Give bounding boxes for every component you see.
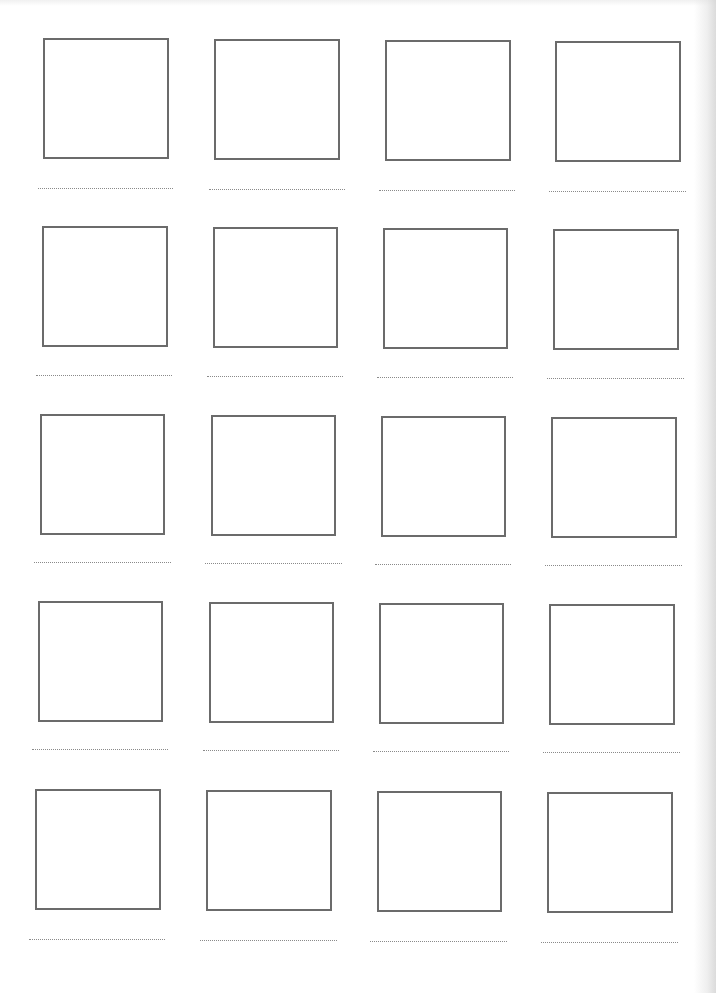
drawing-frame-r5-c4 (547, 792, 673, 913)
writing-line-r3-c4 (545, 565, 682, 566)
writing-line-r3-c3 (375, 564, 511, 565)
writing-line-r1-c4 (549, 191, 686, 192)
writing-line-r2-c3 (377, 377, 513, 378)
page-edge-shadow (694, 0, 716, 993)
writing-line-r1-c3 (379, 190, 515, 191)
writing-line-r4-c1 (32, 749, 168, 750)
drawing-frame-r5-c2 (206, 790, 332, 911)
drawing-frame-r3-c2 (211, 415, 336, 536)
writing-line-r2-c2 (207, 376, 343, 377)
drawing-frame-r4-c2 (209, 602, 334, 723)
drawing-frame-r1-c1 (43, 38, 169, 159)
drawing-frame-r2-c3 (383, 228, 508, 349)
drawing-frame-r2-c1 (42, 226, 168, 347)
writing-line-r4-c4 (543, 752, 680, 753)
drawing-frame-r1-c2 (214, 39, 340, 160)
writing-line-r5-c3 (370, 941, 507, 942)
drawing-frame-r1-c4 (555, 41, 681, 162)
drawing-frame-r4-c4 (549, 604, 675, 725)
writing-line-r3-c2 (205, 563, 342, 564)
drawing-frame-r4-c1 (38, 601, 163, 722)
writing-line-r1-c1 (38, 188, 173, 189)
drawing-frame-r2-c4 (553, 229, 679, 350)
writing-line-r5-c4 (541, 942, 678, 943)
drawing-frame-r3-c3 (381, 416, 506, 537)
drawing-frame-r5-c1 (35, 789, 161, 910)
scan-bleed-through (0, 0, 716, 6)
writing-line-r5-c1 (29, 939, 165, 940)
drawing-frame-r1-c3 (385, 40, 511, 161)
drawing-frame-r5-c3 (377, 791, 502, 912)
drawing-frame-r3-c4 (551, 417, 677, 538)
writing-line-r2-c1 (36, 375, 172, 376)
drawing-frame-r2-c2 (213, 227, 338, 348)
drawing-frame-r3-c1 (40, 414, 165, 535)
writing-line-r4-c3 (373, 751, 509, 752)
drawing-frame-r4-c3 (379, 603, 504, 724)
worksheet-page (0, 0, 716, 993)
writing-line-r2-c4 (547, 378, 684, 379)
writing-line-r1-c2 (209, 189, 345, 190)
writing-line-r4-c2 (203, 750, 339, 751)
writing-line-r3-c1 (34, 562, 171, 563)
writing-line-r5-c2 (200, 940, 337, 941)
